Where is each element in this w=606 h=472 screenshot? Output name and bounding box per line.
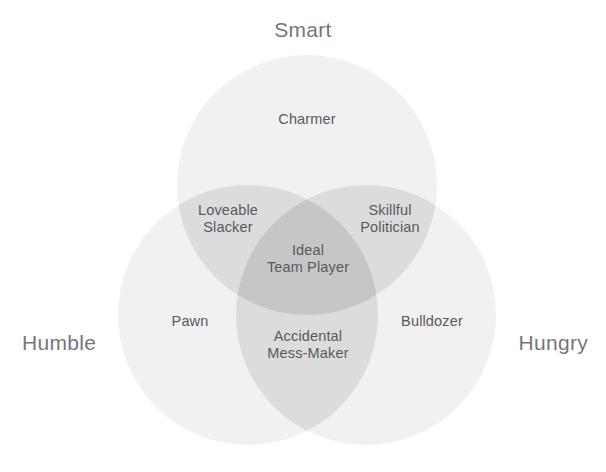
region-label-ideal-team-player: Ideal Team Player — [223, 242, 393, 276]
region-label-charmer: Charmer — [222, 111, 392, 128]
set-label-hungry: Hungry — [519, 331, 589, 355]
region-label-accidental-mess-maker: Accidental Mess-Maker — [223, 328, 393, 362]
venn-circles-graphic — [0, 0, 606, 472]
set-label-humble: Humble — [22, 331, 96, 355]
set-label-smart: Smart — [0, 18, 606, 42]
region-label-loveable-slacker: Loveable Slacker — [143, 202, 313, 236]
region-label-skillful-politician: Skillful Politician — [305, 202, 475, 236]
venn-diagram: Smart Humble Hungry Charmer Pawn Bulldoz… — [0, 0, 606, 472]
